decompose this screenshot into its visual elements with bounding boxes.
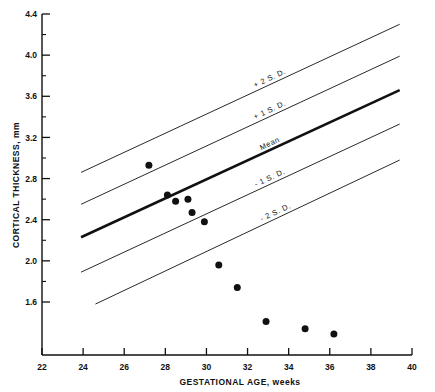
- x-axis-ticks: 22242628303234363840: [37, 348, 417, 372]
- reference-line: [95, 160, 399, 304]
- reference-line-label: + 2 S. D.: [252, 67, 287, 90]
- x-tick-label: 22: [37, 362, 47, 372]
- reference-line: [81, 56, 400, 204]
- data-point: [234, 284, 241, 291]
- y-tick-label: 2.0: [25, 256, 37, 266]
- cortical-thickness-scatter-chart: 1.62.02.42.83.23.64.04.4 222426283032343…: [0, 0, 435, 392]
- y-axis-ticks: 1.62.02.42.83.23.64.04.4: [25, 9, 50, 307]
- reference-line-label: - 1 S. D.: [253, 167, 287, 189]
- x-tick-label: 32: [243, 362, 253, 372]
- x-axis-title: GESTATIONAL AGE, weeks: [179, 377, 300, 387]
- data-point: [201, 218, 208, 225]
- y-tick-label: 4.4: [25, 9, 37, 19]
- reference-line: [81, 124, 400, 272]
- data-point: [184, 196, 191, 203]
- y-axis-title: CORTICAL THICKNESS, mm: [11, 122, 21, 248]
- reference-lines-group: [81, 24, 400, 304]
- data-point: [302, 325, 309, 332]
- reference-line-label: + 1 S. D.: [252, 99, 287, 122]
- data-point: [330, 330, 337, 337]
- x-tick-label: 26: [119, 362, 129, 372]
- data-point: [145, 162, 152, 169]
- y-tick-label: 3.2: [25, 133, 37, 143]
- x-tick-label: 38: [366, 362, 376, 372]
- plot-axes: [42, 14, 412, 355]
- y-tick-label: 2.8: [25, 174, 37, 184]
- y-tick-label: 4.0: [25, 50, 37, 60]
- y-tick-label: 1.6: [25, 297, 37, 307]
- x-tick-label: 36: [325, 362, 335, 372]
- data-points-group: [145, 162, 337, 338]
- y-tick-label: 3.6: [25, 91, 37, 101]
- reference-line: [81, 24, 400, 172]
- data-point: [164, 192, 171, 199]
- reference-line: [81, 90, 400, 237]
- data-point: [172, 198, 179, 205]
- x-tick-label: 28: [161, 362, 171, 372]
- data-point: [263, 318, 270, 325]
- x-tick-label: 24: [78, 362, 88, 372]
- x-tick-label: 30: [202, 362, 212, 372]
- data-point: [189, 209, 196, 216]
- reference-line-label: - 2 S. D.: [259, 201, 293, 223]
- x-tick-label: 40: [407, 362, 417, 372]
- data-point: [215, 261, 222, 268]
- x-tick-label: 34: [284, 362, 294, 372]
- y-tick-label: 2.4: [25, 215, 37, 225]
